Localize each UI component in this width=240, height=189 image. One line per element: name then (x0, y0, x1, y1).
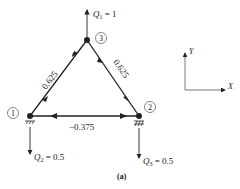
arrow-icon (50, 113, 57, 119)
svg-text:Q3 = 0.5: Q3 = 0.5 (143, 156, 174, 167)
support-icon (25, 121, 35, 124)
y-axis-label: Y (189, 47, 195, 56)
figure-caption: (a) (117, 172, 127, 181)
member-1-3 (30, 40, 87, 116)
svg-text:Q1 = 1: Q1 = 1 (93, 9, 117, 20)
svg-text:1: 1 (11, 109, 15, 118)
load-q2: Q2 = 0.5 (30, 127, 65, 163)
x-axis-label: X (227, 82, 234, 91)
node-2 (136, 113, 142, 119)
arrow-icon (120, 113, 127, 119)
node-1 (27, 113, 33, 119)
node-label-1: 1 (8, 108, 19, 119)
member-1-2 (30, 113, 139, 119)
node-label-2: 2 (145, 102, 156, 113)
svg-text:2: 2 (148, 103, 152, 112)
support-icon (134, 121, 144, 126)
member-force-label: 0.625 (111, 57, 131, 80)
member-force-label: −0.375 (69, 122, 95, 132)
svg-text:Q2 = 0.5: Q2 = 0.5 (34, 152, 65, 163)
coordinate-axes: Y X (185, 47, 234, 91)
svg-text:3: 3 (99, 34, 103, 43)
load-q3: Q3 = 0.5 (139, 128, 174, 167)
truss-diagram: 0.625 0.625 −0.375 1 2 3 Q1 = 1 Q2 = 0.5… (0, 0, 240, 189)
node-label-3: 3 (96, 33, 107, 44)
member-3-2 (87, 40, 139, 116)
